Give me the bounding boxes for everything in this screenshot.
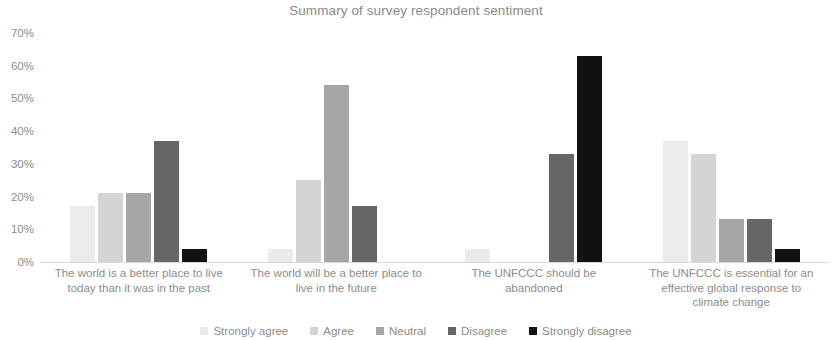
y-axis-tick-label: 20% [0,192,34,202]
bar[interactable] [663,141,688,262]
bar[interactable] [98,193,123,262]
x-axis-category-label: The world is a better place to livetoday… [40,266,238,310]
legend-label: Strongly agree [213,325,288,337]
bar[interactable] [154,141,179,262]
bar[interactable] [747,219,772,262]
bar-group-bars [40,33,238,262]
bar[interactable] [719,219,744,262]
y-axis-tick-label: 60% [0,61,34,71]
legend-item[interactable]: Strongly disagree [529,325,632,337]
bar[interactable] [352,206,377,262]
bar-chart: Summary of survey respondent sentiment 7… [0,0,832,340]
legend-swatch-icon [529,327,537,335]
legend-swatch-icon [376,327,384,335]
x-axis-category-labels: The world is a better place to livetoday… [40,266,830,310]
bar[interactable] [182,249,207,262]
bar[interactable] [70,206,95,262]
legend-item[interactable]: Disagree [448,325,507,337]
legend-swatch-icon [310,327,318,335]
bar[interactable] [324,85,349,262]
y-axis-tick-label: 50% [0,93,34,103]
bar-group [40,33,238,262]
legend-label: Disagree [461,325,507,337]
x-axis-category-label: The UNFCCC is essential for aneffective … [633,266,831,310]
legend-item[interactable]: Strongly agree [200,325,288,337]
y-axis-tick-label: 30% [0,159,34,169]
bar-group [238,33,436,262]
plot-area [40,33,830,262]
x-axis-category-label: The UNFCCC should beabandoned [435,266,633,310]
chart-title: Summary of survey respondent sentiment [0,3,832,18]
x-axis-category-label: The world will be a better place tolive … [238,266,436,310]
legend-swatch-icon [448,327,456,335]
bar-group-bars [238,33,436,262]
y-axis-tick-label: 0% [0,257,34,267]
bar[interactable] [268,249,293,262]
legend-swatch-icon [200,327,208,335]
x-axis-baseline [40,262,830,263]
legend-label: Strongly disagree [542,325,632,337]
bar[interactable] [549,154,574,262]
bar[interactable] [775,249,800,262]
bar-groups [40,33,830,262]
bar[interactable] [126,193,151,262]
bar-group [435,33,633,262]
bar[interactable] [577,56,602,262]
y-axis-tick-label: 10% [0,224,34,234]
y-axis-tick-label: 70% [0,28,34,38]
legend-label: Agree [323,325,354,337]
bar[interactable] [296,180,321,262]
legend-label: Neutral [389,325,426,337]
chart-legend: Strongly agreeAgreeNeutralDisagreeStrong… [0,325,832,337]
y-axis-tick-label: 40% [0,126,34,136]
legend-item[interactable]: Agree [310,325,354,337]
bar-group [633,33,831,262]
bar[interactable] [465,249,490,262]
bar[interactable] [691,154,716,262]
legend-item[interactable]: Neutral [376,325,426,337]
bar-group-bars [633,33,831,262]
bar-group-bars [435,33,633,262]
